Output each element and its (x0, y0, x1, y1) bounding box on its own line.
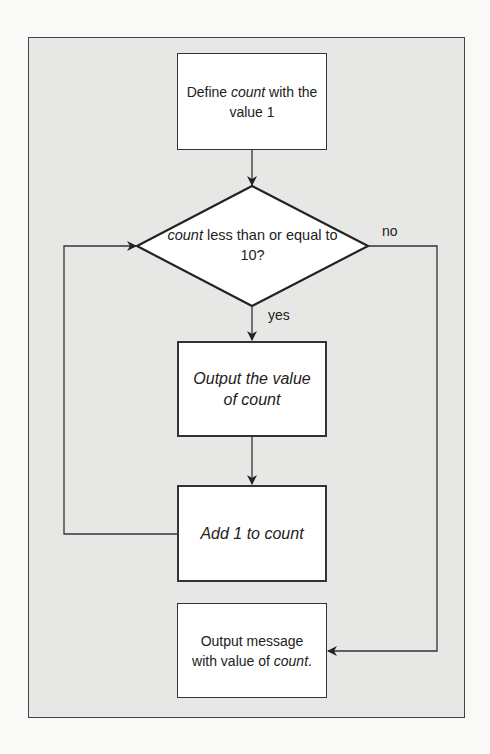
node-output-message-post: . (308, 653, 312, 669)
node-decision-text: count less than or equal to 10? (165, 225, 340, 265)
label-yes: yes (268, 307, 290, 323)
node-add-one: Add 1 to count (177, 485, 327, 582)
node-define-count-pre: Define (187, 84, 231, 100)
node-define-count-var: count (231, 84, 265, 100)
edge-loop-back (64, 246, 177, 534)
node-decision-var: count (167, 227, 202, 243)
node-output-message: Output message with value of count. (177, 603, 327, 698)
label-no: no (382, 223, 398, 239)
node-output-value: Output the value of count (177, 341, 327, 437)
node-output-value-text: Output the value of count (185, 368, 319, 410)
node-add-one-text: Add 1 to count (200, 523, 303, 544)
node-decision-post: less than or equal to 10? (203, 227, 338, 263)
edge-no (328, 246, 437, 651)
node-output-message-var: count (274, 653, 308, 669)
node-define-count: Define count with the value 1 (177, 53, 327, 150)
